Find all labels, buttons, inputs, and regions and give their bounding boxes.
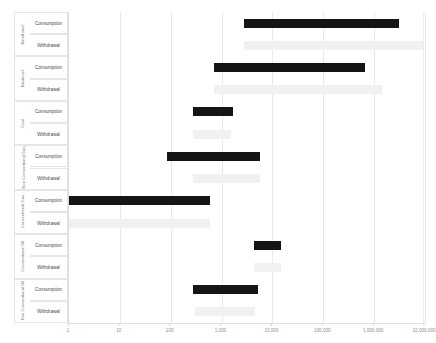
tick-mark bbox=[373, 323, 374, 326]
tick-label: 1,000 bbox=[215, 328, 227, 333]
tick-label: 100 bbox=[166, 328, 174, 333]
range-bar bbox=[254, 241, 281, 250]
metric-label-cell: Consumption bbox=[30, 190, 68, 212]
metric-label-cell: Withdrawal bbox=[30, 168, 68, 190]
chart-row bbox=[69, 301, 423, 323]
metric-label-text: Withdrawal bbox=[37, 265, 60, 270]
metric-label-text: Consumption bbox=[35, 154, 62, 159]
metric-label-cell: Withdrawal bbox=[30, 79, 68, 101]
range-bar bbox=[214, 85, 381, 94]
x-axis-tick: 100,000 bbox=[314, 323, 331, 333]
plot-area bbox=[68, 12, 424, 323]
metric-label-text: Withdrawal bbox=[37, 176, 60, 181]
chart-row bbox=[69, 190, 423, 212]
group-label-cell: Non Conventional Gas bbox=[14, 145, 30, 189]
tick-mark bbox=[271, 323, 272, 326]
x-axis-tick: 1 bbox=[67, 323, 70, 333]
tick-label: 100,000 bbox=[314, 328, 331, 333]
metric-label-text: Withdrawal bbox=[37, 309, 60, 314]
chart-row bbox=[69, 212, 423, 234]
chart-row bbox=[69, 145, 423, 167]
metric-label-text: Withdrawal bbox=[37, 221, 60, 226]
tick-mark bbox=[118, 323, 119, 326]
range-bar bbox=[244, 19, 400, 28]
metric-label-cell: Withdrawal bbox=[30, 212, 68, 234]
metric-label-cell: Consumption bbox=[30, 101, 68, 123]
metric-label-text: Withdrawal bbox=[37, 87, 60, 92]
range-bar bbox=[69, 219, 210, 228]
metric-label-text: Consumption bbox=[35, 109, 62, 114]
chart-row bbox=[69, 12, 423, 34]
chart-row bbox=[69, 56, 423, 78]
x-axis-tick: 1,000,000 bbox=[363, 323, 383, 333]
group-label-cell: Bioethanol bbox=[14, 12, 30, 56]
tick-label: 10 bbox=[116, 328, 121, 333]
range-bar bbox=[244, 41, 423, 50]
group-label-text: Non Conventional Oil bbox=[20, 281, 25, 321]
tick-mark bbox=[424, 323, 425, 326]
group-label-cell: Non Conventional Oil bbox=[14, 279, 30, 323]
x-axis-tick: 1,000 bbox=[215, 323, 227, 333]
group-label-text: Conventional Oil bbox=[20, 241, 25, 272]
metric-label-cell: Consumption bbox=[30, 56, 68, 78]
metric-label-text: Withdrawal bbox=[37, 132, 60, 137]
metric-label-cell: Consumption bbox=[30, 12, 68, 34]
chart-row bbox=[69, 256, 423, 278]
metric-label-cell: Withdrawal bbox=[30, 301, 68, 323]
gridline bbox=[425, 12, 426, 323]
range-bar bbox=[193, 107, 234, 116]
tick-label: 10,000,000 bbox=[413, 328, 436, 333]
tick-label: 1,000,000 bbox=[363, 328, 383, 333]
group-label-cell: Coal bbox=[14, 101, 30, 145]
chart-row bbox=[69, 101, 423, 123]
group-label-text: Non Conventional Gas bbox=[20, 146, 25, 188]
chart-row bbox=[69, 234, 423, 256]
group-label-text: Bioethanol bbox=[20, 24, 25, 44]
metric-label-text: Withdrawal bbox=[37, 43, 60, 48]
x-axis-tick: 100 bbox=[166, 323, 174, 333]
metric-label-cell: Withdrawal bbox=[30, 123, 68, 145]
range-bar bbox=[193, 174, 260, 183]
chart-row bbox=[69, 79, 423, 101]
metric-label-text: Consumption bbox=[35, 65, 62, 70]
metric-label-cell: Consumption bbox=[30, 279, 68, 301]
group-label-text: Biodiesel bbox=[20, 70, 25, 87]
range-bar bbox=[214, 63, 365, 72]
range-bar bbox=[195, 307, 255, 316]
group-label-cell: Biodiesel bbox=[14, 56, 30, 100]
range-bar bbox=[254, 263, 281, 272]
metric-label-text: Consumption bbox=[35, 21, 62, 26]
chart-row bbox=[69, 123, 423, 145]
metric-label-text: Consumption bbox=[35, 243, 62, 248]
range-bar bbox=[167, 152, 260, 161]
tick-label: 10,000 bbox=[264, 328, 278, 333]
range-bar bbox=[193, 285, 258, 294]
metric-label-column: ConsumptionWithdrawalConsumptionWithdraw… bbox=[30, 12, 68, 323]
group-label-text: Conventional Gas bbox=[20, 195, 25, 228]
tick-mark bbox=[322, 323, 323, 326]
group-label-cell: Conventional Oil bbox=[14, 234, 30, 278]
x-axis-tick: 10,000 bbox=[264, 323, 278, 333]
metric-label-text: Consumption bbox=[35, 287, 62, 292]
tick-label: 1 bbox=[67, 328, 70, 333]
metric-label-cell: Withdrawal bbox=[30, 256, 68, 278]
chart-row bbox=[69, 34, 423, 56]
metric-label-cell: Consumption bbox=[30, 145, 68, 167]
chart-row bbox=[69, 279, 423, 301]
x-axis: 1101001,00010,000100,0001,000,00010,000,… bbox=[68, 323, 424, 343]
chart-row bbox=[69, 168, 423, 190]
group-label-cell: Conventional Gas bbox=[14, 190, 30, 234]
x-axis-tick: 10,000,000 bbox=[413, 323, 436, 333]
range-bar bbox=[69, 196, 210, 205]
metric-label-cell: Withdrawal bbox=[30, 34, 68, 56]
metric-label-text: Consumption bbox=[35, 198, 62, 203]
tick-mark bbox=[220, 323, 221, 326]
group-label-column: BioethanolBiodieselCoalNon Conventional … bbox=[14, 12, 30, 323]
tick-mark bbox=[68, 323, 69, 326]
tick-mark bbox=[169, 323, 170, 326]
x-axis-tick: 10 bbox=[116, 323, 121, 333]
group-label-text: Coal bbox=[20, 119, 25, 128]
range-bar bbox=[193, 130, 231, 139]
cropped-legend-stub bbox=[70, 0, 190, 7]
